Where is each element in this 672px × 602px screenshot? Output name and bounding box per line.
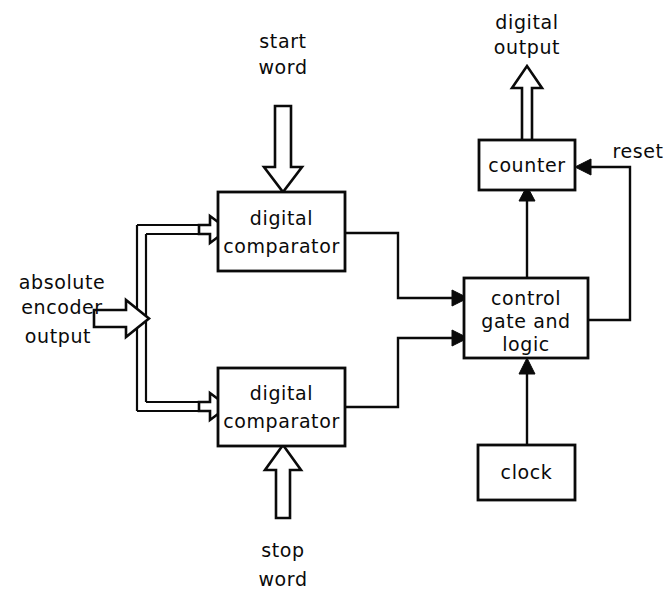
- digital-comparator-bottom-block[interactable]: digital comparator: [218, 368, 345, 446]
- block-diagram: digital comparator digital comparator co…: [0, 0, 672, 602]
- encoder-label-line1: absolute: [19, 271, 106, 293]
- digital-comparator-top-block[interactable]: digital comparator: [218, 192, 345, 271]
- control-to-counter-wire: [519, 186, 535, 278]
- digital-output-label-line1: digital: [495, 11, 558, 33]
- comparator-bottom-label-line2: comparator: [223, 410, 340, 432]
- comparator-top-label-line2: comparator: [223, 235, 340, 257]
- start-word-arrow: [264, 106, 302, 192]
- encoder-label-line2: encoder: [21, 296, 103, 318]
- digital-output-label: digital output: [494, 11, 560, 58]
- control-label-line3: logic: [502, 333, 550, 355]
- clock-label: clock: [501, 461, 553, 483]
- stop-word-arrow: [265, 445, 301, 518]
- stop-word-label-line2: word: [258, 568, 307, 590]
- top-comparator-output-wire: [345, 233, 468, 306]
- start-word-label: start word: [258, 30, 307, 78]
- control-label-line1: control: [491, 287, 561, 309]
- absolute-encoder-output-label: absolute encoder output: [19, 271, 106, 347]
- comparator-bottom-label-line1: digital: [250, 382, 313, 404]
- reset-label-text: reset: [612, 140, 663, 162]
- stop-word-label: stop word: [258, 539, 307, 590]
- control-gate-and-logic-block[interactable]: control gate and logic: [464, 278, 588, 358]
- control-label-line2: gate and: [481, 310, 570, 332]
- counter-label: counter: [488, 154, 565, 176]
- digital-output-arrow: [512, 66, 542, 143]
- reset-label: reset: [612, 140, 663, 162]
- start-word-label-line2: word: [258, 56, 307, 78]
- encoder-label-line3: output: [25, 325, 91, 347]
- comparator-top-label-line1: digital: [250, 207, 313, 229]
- clock-block[interactable]: clock: [478, 445, 575, 500]
- stop-word-label-line1: stop: [261, 539, 304, 561]
- bottom-comparator-output-wire: [345, 330, 468, 407]
- diagram-canvas: digital comparator digital comparator co…: [0, 0, 672, 602]
- counter-block[interactable]: counter: [479, 140, 575, 190]
- digital-output-label-line2: output: [494, 36, 560, 58]
- clock-to-control-wire: [519, 358, 535, 445]
- start-word-label-line1: start: [259, 30, 306, 52]
